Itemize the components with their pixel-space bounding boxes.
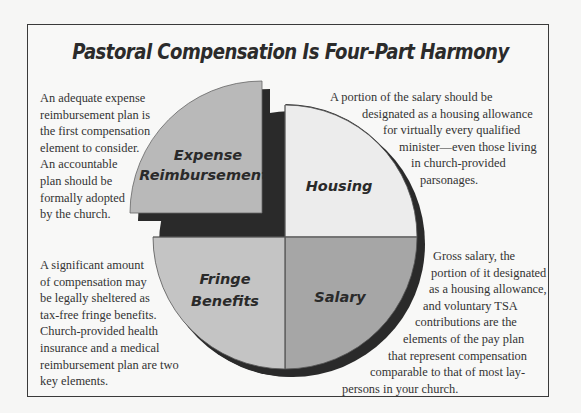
note-line: portion of it designated [431,265,546,282]
note-line: by the church. [40,206,150,223]
note-line: element to consider. [40,140,150,157]
note-line: key elements. [40,373,179,390]
label-fringe-line2: Benefits [191,293,259,309]
note-line: Church-provided health [40,323,179,340]
note-line: reimbursement plan is [40,107,150,124]
note-line: the first compensation [40,123,150,140]
note-line: parsonages. [420,172,478,189]
note-fringe: A significant amount of compensation may… [40,257,179,390]
note-line: persons in your church. [342,381,458,398]
note-line: Gross salary, the [433,248,515,265]
note-line: reimbursement plan are two [40,357,179,374]
note-line: elements of the pay plan [403,331,524,348]
note-line: insurance and a medical [40,340,179,357]
note-line: be legally sheltered as [40,290,179,307]
note-line: An adequate expense [40,90,150,107]
note-line: designated as a housing allowance [362,106,533,123]
label-expense-line2: Reimbursements [139,167,277,183]
label-expense-line1: Expense [174,147,242,163]
note-line: of compensation may [40,274,179,291]
note-line: contributions are the [415,314,517,331]
note-line: comparable to that of most lay- [370,364,525,381]
note-line: tax-free fringe benefits. [40,307,179,324]
note-expense: An adequate expense reimbursement plan i… [40,90,150,223]
note-line: as a housing allowance, [429,281,547,298]
note-line: A significant amount [40,257,179,274]
note-line: A portion of the salary should be [330,89,492,106]
note-line: in church-provided [411,155,506,172]
label-housing: Housing [306,178,373,194]
label-fringe-line1: Fringe [200,271,251,287]
label-salary: Salary [314,289,366,305]
note-line: An accountable [40,156,150,173]
note-line: that represent compensation [388,348,527,365]
note-line: for virtually every qualified [383,122,520,139]
note-line: and voluntary TSA [423,298,518,315]
note-line: plan should be [40,173,150,190]
note-line: formally adopted [40,190,150,207]
note-line: minister—even those living [399,139,537,156]
